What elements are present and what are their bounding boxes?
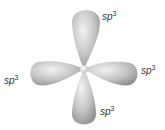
orbital-lobe-bottom	[72, 69, 96, 125]
orbital-lobe-right	[84, 62, 138, 86]
label-bottom: sp3	[100, 107, 114, 117]
orbital-lobe-top	[72, 10, 100, 69]
label-left: sp3	[4, 76, 18, 86]
nucleus	[80, 65, 88, 73]
label-right: sp3	[141, 66, 155, 76]
orbital-lobe-left	[31, 61, 85, 85]
label-top: sp3	[102, 12, 116, 22]
